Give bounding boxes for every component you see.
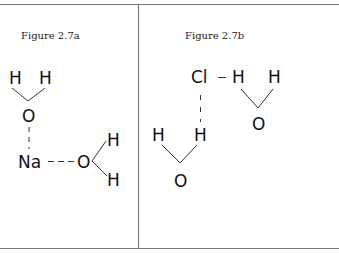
atom-na: Na: [18, 152, 41, 172]
bond-o-h-right: [92, 141, 107, 176]
atom-h-lower-right: H: [194, 125, 207, 145]
atom-h-cl-bonded: H: [232, 67, 245, 87]
atom-o-top: O: [22, 106, 35, 126]
atom-o-upper: O: [252, 114, 265, 134]
atom-cl: Cl: [191, 67, 208, 87]
atom-h-top-left: H: [9, 68, 22, 88]
panel-2-7a: Figure 2.7a H H O Na O H H: [9, 30, 120, 190]
atom-h-top-right: H: [268, 67, 281, 87]
figure-caption-a: Figure 2.7a: [21, 30, 80, 41]
panel-2-7b: Figure 2.7b Cl H H O H H O: [152, 30, 281, 191]
figure-caption-b: Figure 2.7b: [185, 30, 244, 41]
atom-h-lower-left: H: [152, 125, 165, 145]
bond-h-o-h-lower: [162, 145, 197, 163]
atom-h-right-lower: H: [107, 170, 120, 190]
atom-o-lower: O: [174, 171, 187, 191]
atom-h-top-right: H: [39, 68, 52, 88]
atom-o-right: O: [77, 152, 90, 172]
bond-h-o-h-top: [12, 88, 45, 101]
figure-frame: Figure 2.7a H H O Na O H H Figure 2.7b C…: [0, 0, 339, 253]
atom-h-right-upper: H: [107, 130, 120, 150]
bond-h-o-h-upper: [241, 89, 273, 108]
